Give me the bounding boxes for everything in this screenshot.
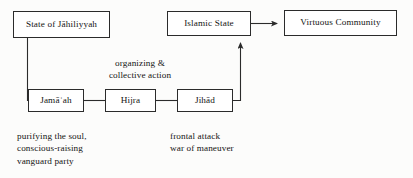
caption-jihad-stage: frontal attack war of maneuver: [170, 130, 234, 155]
caption-jamaah-stage: purifying the soul, conscious-raising va…: [17, 130, 87, 167]
node-jamaah: Jamāʿah: [28, 89, 84, 112]
diagram-canvas: State of Jāhiliyyah Islamic State Virtuo…: [0, 0, 413, 178]
edge-label-organizing-collective-action: organizing & collective action: [88, 57, 192, 82]
node-islamic-state: Islamic State: [167, 11, 251, 36]
node-hijra: Hijra: [105, 89, 156, 112]
node-jihad: Jihād: [177, 89, 233, 112]
node-virtuous-community: Virtuous Community: [284, 10, 397, 36]
node-state-of-jahiliyyah: State of Jāhiliyyah: [13, 11, 110, 38]
edge-jihad-to-islamic-state: [233, 43, 241, 101]
